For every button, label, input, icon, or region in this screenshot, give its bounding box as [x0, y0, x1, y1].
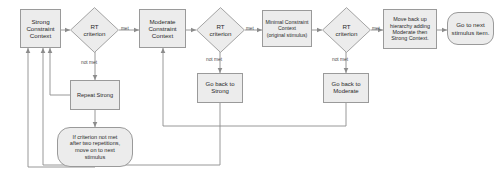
edge-label-met-3: met — [372, 26, 380, 31]
edge-repeat-strong-back-to-strong — [50, 48, 70, 95]
node-rt-criterion-1[interactable]: RT criterion — [70, 7, 119, 53]
edge-label-not-met-1: not met — [81, 60, 97, 65]
node-rt-criterion-2[interactable]: RT criterion — [196, 7, 245, 53]
node-go-back-to-strong[interactable]: Go back to Strong — [197, 73, 243, 103]
node-go-back-to-moderate[interactable]: Go back to Moderate — [323, 73, 369, 103]
node-label: RT criterion — [82, 23, 106, 38]
edge-label-met-2: met — [246, 26, 254, 31]
edge-label-met-1: met — [121, 26, 129, 31]
node-label: RT criterion — [208, 23, 232, 38]
node-go-to-next-stimulus-item[interactable]: Go to next stimulus item. — [447, 12, 494, 45]
node-label: Move back up hierarchy adding Moderate t… — [389, 16, 431, 42]
node-move-back-up-hierarchy[interactable]: Move back up hierarchy adding Moderate t… — [383, 9, 437, 49]
node-strong-constraint-context[interactable]: Strong Constraint Context — [20, 9, 61, 48]
node-label: If criterion not met after two repetitio… — [69, 134, 121, 160]
node-label: Moderate Constraint Context — [147, 18, 177, 40]
node-repeat-strong[interactable]: Repeat Strong — [70, 80, 120, 110]
node-minimal-constraint-context[interactable]: Minimal Constraint Context (original sti… — [262, 10, 312, 47]
node-two-repetitions-note[interactable]: If criterion not met after two repetitio… — [57, 127, 133, 167]
node-label: Go back to Strong — [204, 81, 235, 95]
edge-goback-moderate-to-moderate — [163, 48, 346, 126]
node-label: Go to next stimulus item. — [451, 21, 491, 36]
node-label: RT criterion — [334, 23, 358, 38]
flowchart-canvas: Strong Constraint Context RT criterion M… — [0, 0, 499, 185]
node-label: Strong Constraint Context — [25, 18, 55, 40]
edge-label-not-met-2: not met — [206, 57, 222, 62]
node-label: Minimal Constraint Context (original sti… — [265, 19, 310, 37]
edge-label-not-met-3: not met — [332, 57, 348, 62]
node-label: Repeat Strong — [76, 92, 114, 99]
node-moderate-constraint-context[interactable]: Moderate Constraint Context — [139, 9, 186, 48]
node-rt-criterion-3[interactable]: RT criterion — [322, 7, 371, 53]
node-label: Go back to Moderate — [330, 81, 361, 95]
